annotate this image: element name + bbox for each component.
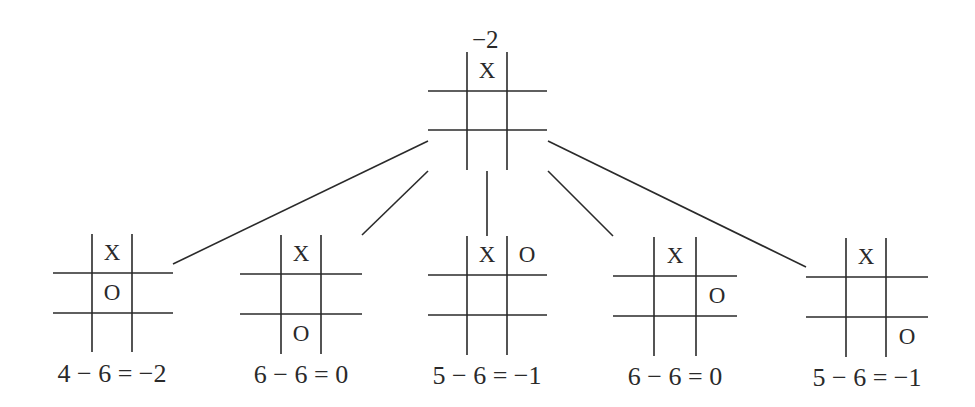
child-5-score-label: 5 − 6 = −1 bbox=[787, 365, 947, 391]
child-1-score-label: 4 − 6 = −2 bbox=[32, 361, 192, 387]
game-tree-diagram: −2 X X O 4 − 6 = −2 X O 6 − 6 = 0 X O 5 … bbox=[0, 0, 975, 407]
root-cell-1-x: X bbox=[467, 59, 507, 82]
child-5-cell-1-x: X bbox=[846, 245, 886, 268]
child-4-score-label: 6 − 6 = 0 bbox=[595, 364, 755, 390]
child-3-cell-1-x: X bbox=[467, 243, 507, 266]
child-3-score-label: 5 − 6 = −1 bbox=[407, 363, 567, 389]
child-2-score-label: 6 − 6 = 0 bbox=[221, 362, 381, 388]
child-2-cell-7-o: O bbox=[281, 322, 321, 345]
child-2-cell-1-x: X bbox=[281, 242, 321, 265]
child-4-cell-5-o: O bbox=[697, 284, 737, 307]
child-1-cell-4-o: O bbox=[92, 281, 132, 304]
child-1-cell-1-x: X bbox=[92, 241, 132, 264]
child-3-cell-2-o: O bbox=[507, 243, 547, 266]
child-5-cell-8-o: O bbox=[887, 325, 927, 348]
child-4-cell-1-x: X bbox=[655, 244, 695, 267]
root-score: −2 bbox=[472, 27, 499, 52]
